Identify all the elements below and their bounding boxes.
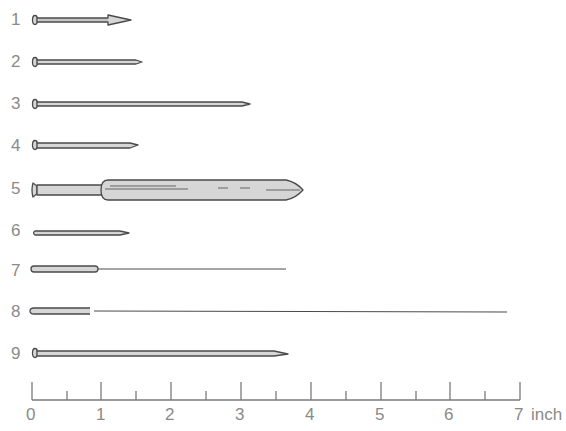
needle-8-icon (30, 308, 507, 314)
ruler-unit-label: inch (531, 406, 562, 423)
ruler-tick-5: 5 (375, 406, 384, 423)
ruler-tick-4: 4 (305, 406, 314, 423)
ruler-tick-1: 1 (96, 406, 105, 423)
pin-1-icon (33, 15, 132, 25)
ruler-tick-3: 3 (235, 406, 244, 423)
pin-3-icon (33, 100, 251, 109)
diagram-graphics (0, 0, 566, 431)
pin-size-diagram: 1 2 3 4 5 6 7 8 9 (0, 0, 566, 431)
inch-ruler (32, 382, 520, 400)
ruler-tick-2: 2 (165, 406, 174, 423)
pin-9-icon (33, 349, 289, 358)
needle-7-icon (31, 266, 286, 272)
ruler-tick-6: 6 (444, 406, 453, 423)
pin-5-icon (32, 180, 303, 200)
pin-4-icon (33, 141, 139, 150)
ruler-tick-7: 7 (514, 406, 523, 423)
ruler-tick-0: 0 (26, 406, 35, 423)
pin-6-icon (34, 231, 130, 235)
pin-2-icon (33, 58, 143, 67)
